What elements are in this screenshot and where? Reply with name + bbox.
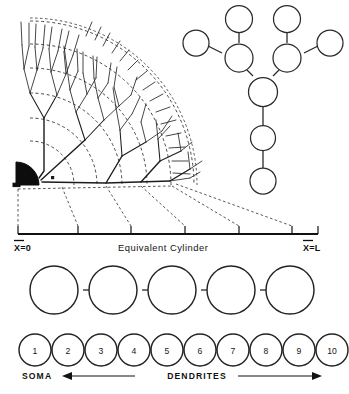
cylinder-segment-4 — [207, 266, 255, 314]
tree-node-stem-mid — [251, 126, 276, 151]
compartment-label-10: 10 — [327, 346, 337, 356]
soma-label: SOMA — [22, 371, 52, 381]
axis-left-label: X=0 — [14, 243, 31, 253]
compartment-label-7: 7 — [231, 346, 236, 356]
tree-node-left-branch — [225, 44, 253, 72]
tree-node-terminal-right-upper — [274, 6, 301, 33]
figure-root: X=0 Equivalent Cylinder X=L — [0, 0, 349, 394]
compartment-label-1: 1 — [33, 346, 38, 356]
cylinder-segment-2 — [89, 266, 137, 314]
origin-marker-dot — [51, 176, 54, 179]
compartment-label-9: 9 — [297, 346, 302, 356]
cylinder-segment-1 — [30, 266, 78, 314]
tree-node-branch-point — [249, 78, 278, 107]
compartment-label-3: 3 — [99, 346, 104, 356]
compartment-label-6: 6 — [198, 346, 203, 356]
compartment-label-2: 2 — [66, 346, 71, 356]
tree-node-right-branch — [273, 44, 301, 72]
tree-node-stem-distal — [250, 168, 276, 194]
tree-node-terminal-right-outer — [317, 30, 343, 56]
dendrites-label: DENDRITES — [167, 371, 227, 381]
equivalent-cylinder-figure: X=0 Equivalent Cylinder X=L — [0, 0, 349, 394]
compartment-label-4: 4 — [132, 346, 137, 356]
axis-right-label: X=L — [303, 243, 321, 253]
soma-base — [13, 183, 20, 186]
cylinder-segment-3 — [148, 266, 196, 314]
cylinder-segment-5 — [266, 266, 314, 314]
axis-center-label: Equivalent Cylinder — [118, 242, 208, 253]
tree-node-terminal-left-outer — [183, 30, 209, 56]
tree-node-terminal-left-upper — [226, 6, 253, 33]
compartment-label-5: 5 — [165, 346, 170, 356]
compartment-label-8: 8 — [264, 346, 269, 356]
